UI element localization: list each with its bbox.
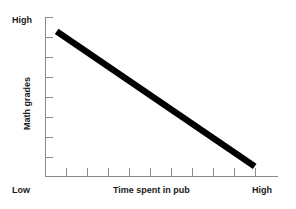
x-axis-max-label: High [252,186,272,195]
x-axis-ticks [67,168,256,176]
y-axis-min-label: Low [12,186,30,195]
x-axis-title: Time spent in pub [113,186,190,195]
chart-screenshot: High Low High Time spent in pub Math gra… [0,0,296,209]
y-axis-max-label: High [12,16,32,25]
y-axis-title: Math grades [23,72,32,136]
scatter-line-chart [0,0,296,209]
trend-line [57,31,255,166]
